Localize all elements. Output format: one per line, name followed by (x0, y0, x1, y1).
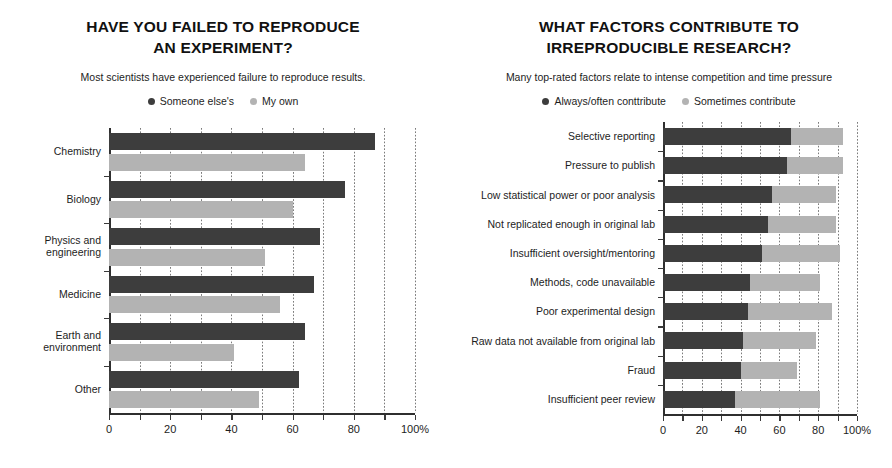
stacked-bar[interactable] (663, 245, 857, 262)
bar-group (109, 366, 415, 414)
x-tick-label-20: 20 (696, 424, 708, 436)
stacked-bar[interactable] (663, 303, 857, 320)
bar-segment-primary[interactable] (663, 274, 750, 291)
stacked-bar[interactable] (663, 391, 857, 408)
bar-segment-primary[interactable] (663, 186, 772, 203)
bar-secondary[interactable] (109, 296, 280, 313)
legend-label-someone-elses: Someone else's (160, 95, 234, 107)
stacked-bar[interactable] (663, 157, 857, 174)
gridline-100 (415, 128, 416, 413)
chart-panel-failed-to-reproduce: HAVE YOU FAILED TO REPRODUCE AN EXPERIME… (0, 0, 446, 468)
bar-segment-primary[interactable] (663, 391, 735, 408)
bar-group (663, 180, 857, 209)
bar-segment-primary[interactable] (663, 245, 762, 262)
stacked-bar[interactable] (663, 274, 857, 291)
bar-segment-primary[interactable] (663, 362, 741, 379)
bar-segment-secondary[interactable] (772, 186, 836, 203)
bar-secondary[interactable] (109, 201, 293, 218)
right-chart-title: WHAT FACTORS CONTRIBUTE TO IRREPRODUCIBL… (446, 0, 892, 58)
left-chart-subtitle: Most scientists have experienced failure… (0, 70, 446, 84)
x-tick-mark-60 (293, 415, 294, 420)
gridline-100 (857, 122, 858, 414)
legend-item-my-own: My own (250, 95, 298, 107)
x-tick-mark-40 (231, 415, 232, 420)
bar-group (109, 271, 415, 319)
bar-primary[interactable] (109, 133, 375, 150)
bar-segment-secondary[interactable] (750, 274, 820, 291)
x-tick-label-40: 40 (734, 424, 746, 436)
bar-segment-secondary[interactable] (762, 245, 840, 262)
bar-segment-primary[interactable] (663, 216, 768, 233)
right-chart-title-line1: WHAT FACTORS CONTRIBUTE TO (539, 18, 799, 35)
category-label: Methods, code unavailable (445, 276, 655, 289)
x-tick-label-20: 20 (164, 423, 176, 435)
bar-secondary[interactable] (109, 344, 234, 361)
category-label: Low statistical power or poor analysis (445, 189, 655, 202)
left-chart-legend: Someone else's My own (0, 95, 446, 107)
x-tick-mark-90 (384, 415, 385, 420)
x-tick-label-100: 100% (401, 423, 429, 435)
category-label: Other (6, 383, 101, 396)
category-label: Earth and environment (6, 329, 101, 354)
category-label: Biology (6, 193, 101, 206)
category-label: Insufficient peer review (445, 393, 655, 406)
bar-segment-primary[interactable] (663, 128, 791, 145)
stacked-bar[interactable] (663, 332, 857, 349)
bar-group (663, 356, 857, 385)
bar-segment-secondary[interactable] (787, 157, 843, 174)
x-tick-label-80: 80 (812, 424, 824, 436)
stacked-bar[interactable] (663, 128, 857, 145)
x-tick-label-0: 0 (106, 423, 112, 435)
x-tick-mark-90 (838, 416, 839, 421)
x-tick-mark-80 (354, 415, 355, 420)
x-tick-mark-50 (760, 416, 761, 421)
x-tick-mark-0 (109, 415, 110, 420)
bar-segment-secondary[interactable] (741, 362, 797, 379)
bar-secondary[interactable] (109, 154, 305, 171)
x-tick-label-80: 80 (348, 423, 360, 435)
stacked-bar[interactable] (663, 216, 857, 233)
left-plot-area (0, 128, 446, 413)
left-chart-title: HAVE YOU FAILED TO REPRODUCE AN EXPERIME… (0, 0, 446, 58)
bar-segment-secondary[interactable] (791, 128, 843, 145)
bar-segment-primary[interactable] (663, 303, 748, 320)
x-tick-mark-100 (415, 415, 416, 420)
category-label: Selective reporting (445, 130, 655, 143)
bar-segment-secondary[interactable] (748, 303, 831, 320)
category-label: Fraud (445, 364, 655, 377)
bar-group (109, 223, 415, 271)
bar-group (663, 385, 857, 414)
category-label: Not replicated enough in original lab (445, 218, 655, 231)
bar-primary[interactable] (109, 323, 305, 340)
bar-segment-secondary[interactable] (743, 332, 817, 349)
bar-secondary[interactable] (109, 249, 265, 266)
x-tick-mark-60 (779, 416, 780, 421)
category-label: Chemistry (6, 145, 101, 158)
bar-segment-primary[interactable] (663, 332, 743, 349)
bar-segment-primary[interactable] (663, 157, 787, 174)
bar-group (663, 239, 857, 268)
bar-primary[interactable] (109, 228, 320, 245)
stacked-bar[interactable] (663, 362, 857, 379)
bar-group (663, 151, 857, 180)
right-chart-subtitle: Many top-rated factors relate to intense… (446, 70, 892, 84)
stacked-bar[interactable] (663, 186, 857, 203)
legend-item-someone-elses: Someone else's (148, 95, 234, 107)
bar-segment-secondary[interactable] (735, 391, 820, 408)
legend-item-always-often: Always/often conttribute (542, 95, 665, 107)
x-tick-mark-0 (663, 416, 664, 421)
legend-label-always-often: Always/often conttribute (554, 95, 665, 107)
bar-primary[interactable] (109, 181, 345, 198)
x-tick-mark-80 (818, 416, 819, 421)
reproducibility-figure: HAVE YOU FAILED TO REPRODUCE AN EXPERIME… (0, 0, 892, 468)
bar-secondary[interactable] (109, 391, 259, 408)
right-chart-legend: Always/often conttribute Sometimes contr… (446, 95, 892, 107)
bar-segment-secondary[interactable] (768, 216, 836, 233)
bar-primary[interactable] (109, 371, 299, 388)
x-tick-mark-40 (741, 416, 742, 421)
category-label: Pressure to publish (445, 159, 655, 172)
bar-group (663, 326, 857, 355)
legend-item-sometimes: Sometimes contribute (682, 95, 796, 107)
bar-primary[interactable] (109, 276, 314, 293)
x-tick-label-60: 60 (773, 424, 785, 436)
